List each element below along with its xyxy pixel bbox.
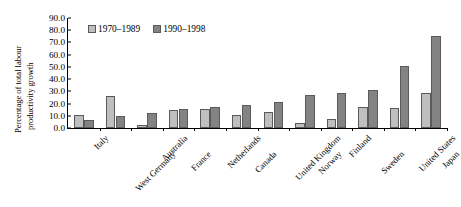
bar-group — [358, 18, 378, 128]
bar-group — [232, 18, 252, 128]
bar — [210, 107, 220, 128]
bar — [137, 125, 147, 128]
y-tick-label: 30.0 — [49, 86, 68, 96]
x-axis-labels: ItalyWest GermanyAustraliaFranceNetherla… — [0, 131, 454, 207]
y-tick-label: 70.0 — [49, 37, 68, 47]
legend-item: 1970–1989 — [88, 24, 140, 34]
legend-label: 1990–1998 — [163, 24, 205, 34]
x-axis-label: Sweden — [379, 149, 406, 176]
legend-label: 1970–1989 — [98, 24, 140, 34]
plot-area: 0.010.020.030.040.050.060.070.080.090.0 — [67, 18, 447, 129]
y-tick-label: 80.0 — [49, 25, 68, 35]
x-axis-label: Finland — [347, 133, 373, 159]
bar-group — [390, 18, 410, 128]
x-axis-label: France — [189, 149, 213, 173]
bar — [305, 95, 315, 128]
x-axis-label: Canada — [252, 149, 278, 175]
bar — [179, 109, 189, 128]
y-axis-title-line-2: productivity growth — [25, 62, 35, 130]
chart-legend: 1970–19891990–1998 — [88, 24, 205, 34]
bar — [116, 116, 126, 128]
bar — [147, 113, 157, 128]
bar — [242, 105, 252, 128]
bar — [232, 115, 242, 128]
bar — [421, 93, 431, 128]
bar-group — [295, 18, 315, 128]
bar — [74, 115, 84, 128]
legend-swatch — [153, 25, 161, 33]
bar-group — [106, 18, 126, 128]
bar — [200, 109, 210, 128]
bar-group — [264, 18, 284, 128]
y-tick-label: 60.0 — [49, 50, 68, 60]
bar — [295, 123, 305, 128]
y-tick-label: 40.0 — [49, 74, 68, 84]
bar-group — [421, 18, 441, 128]
bar — [106, 96, 116, 128]
bar — [368, 90, 378, 128]
bar — [264, 112, 274, 129]
y-tick-label: 10.0 — [49, 111, 68, 121]
bar-group — [200, 18, 220, 128]
bar — [274, 102, 284, 128]
bars-layer — [68, 18, 447, 128]
legend-item: 1990–1998 — [153, 24, 205, 34]
bar — [358, 107, 368, 128]
bar — [390, 108, 400, 128]
y-tick-label: 20.0 — [49, 99, 68, 109]
bar — [431, 36, 441, 128]
y-tick-label: 90.0 — [49, 13, 68, 23]
legend-swatch — [88, 25, 96, 33]
y-axis-title-line-1: Percentage of total labour — [13, 46, 23, 133]
bar — [84, 120, 94, 128]
bar-group — [74, 18, 94, 128]
y-tick-label: 50.0 — [49, 62, 68, 72]
bar — [400, 66, 410, 128]
x-axis-label: Italy — [92, 133, 110, 151]
bar-group — [169, 18, 189, 128]
bar — [169, 110, 179, 128]
bar — [327, 119, 337, 128]
bar-group — [327, 18, 347, 128]
bar — [337, 93, 347, 128]
bar-group — [137, 18, 157, 128]
